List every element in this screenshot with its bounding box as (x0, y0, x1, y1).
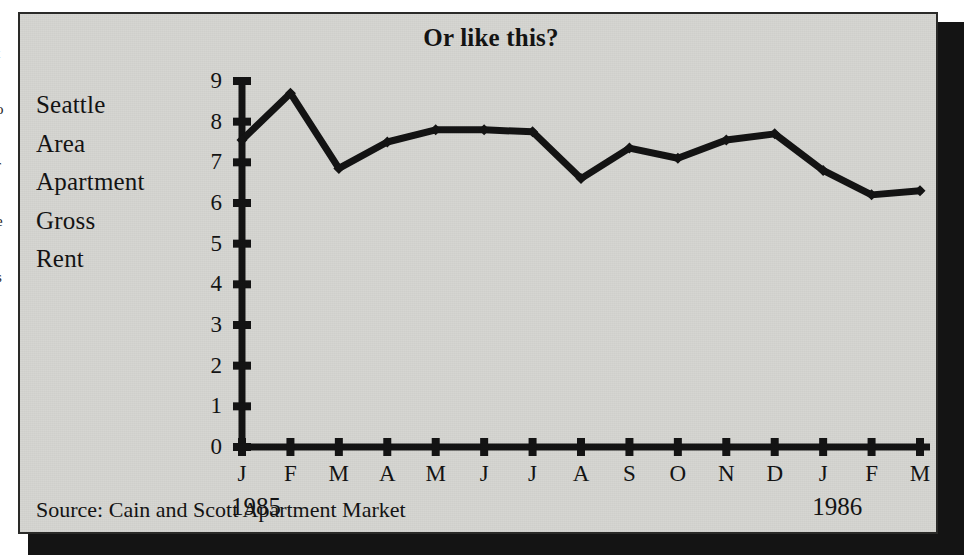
y-axis-tick-label: 9 (196, 68, 222, 94)
y-axis-tick-label: 1 (196, 393, 222, 419)
bleed-char: o (0, 94, 16, 124)
y-axis-tick-label: 4 (196, 271, 222, 297)
plot-area: 0123456789JFMAMJJASONDJFM19851986 (20, 14, 938, 534)
scanned-page: tores Or like this? SeattleAreaApartment… (0, 0, 964, 555)
y-axis-tick-label: 7 (196, 149, 222, 175)
y-axis-tick-label: 2 (196, 353, 222, 379)
x-axis-tick-label: J (518, 461, 548, 487)
x-axis-tick-label: M (905, 461, 935, 487)
x-axis-tick-label: J (227, 461, 257, 487)
y-axis-tick-label: 5 (196, 231, 222, 257)
x-axis-tick-label: S (614, 461, 644, 487)
x-axis-tick-label: J (469, 461, 499, 487)
x-axis-tick-label: A (566, 461, 596, 487)
y-axis-tick-label: 3 (196, 312, 222, 338)
x-axis-tick-label: N (711, 461, 741, 487)
x-axis-tick-label: J (808, 461, 838, 487)
bleed-char: e (0, 206, 16, 236)
chart-figure: Or like this? SeattleAreaApartmentGrossR… (18, 12, 938, 534)
x-axis-tick-label: F (857, 461, 887, 487)
y-axis-tick-label: 0 (196, 434, 222, 460)
bleed-char: t (0, 38, 16, 68)
data-point-marker (915, 185, 926, 196)
x-axis-tick-label: M (421, 461, 451, 487)
x-axis-tick-label: A (372, 461, 402, 487)
x-axis-tick-label: M (324, 461, 354, 487)
y-axis-tick-label: 6 (196, 190, 222, 216)
source-note: Source: Cain and Scott Apartment Market (36, 497, 406, 523)
bleed-char: s (0, 262, 16, 292)
y-axis-tick-label: 8 (196, 109, 222, 135)
bleed-char: r (0, 150, 16, 180)
data-point-marker (479, 124, 490, 135)
adjacent-column-text-bleed: tores (0, 0, 16, 555)
x-axis-year-label: 1986 (797, 493, 877, 521)
x-axis-tick-label: O (663, 461, 693, 487)
line-chart-svg (20, 14, 938, 534)
x-axis-tick-label: D (760, 461, 790, 487)
x-axis-tick-label: F (275, 461, 305, 487)
